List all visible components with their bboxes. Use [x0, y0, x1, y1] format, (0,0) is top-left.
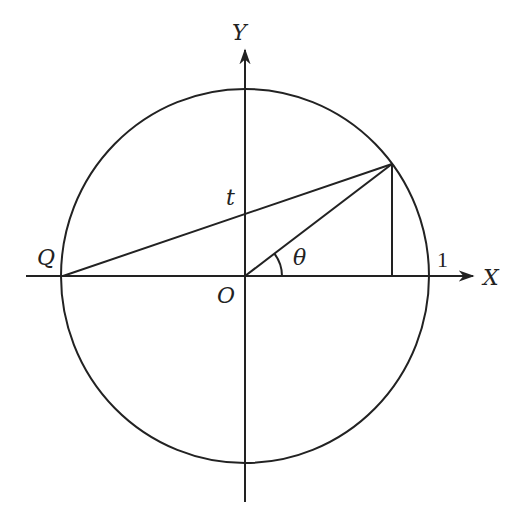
x-axis-label: X — [481, 265, 500, 290]
y-axis-label: Y — [232, 20, 249, 45]
radius-o-to-p — [245, 164, 392, 276]
origin-label: O — [217, 283, 235, 308]
unit-circle-diagram: Y X O Q t θ 1 — [0, 0, 523, 514]
point-q-label: Q — [37, 245, 55, 270]
intercept-t-label: t — [226, 185, 235, 210]
angle-arc — [274, 254, 282, 276]
angle-theta-label: θ — [293, 245, 306, 270]
radius-one-label: 1 — [437, 247, 448, 272]
line-q-to-p — [63, 164, 392, 276]
